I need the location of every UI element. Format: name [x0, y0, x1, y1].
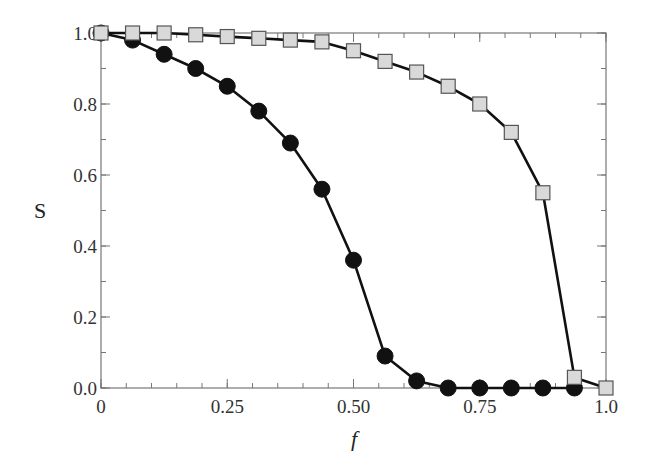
plot-border [101, 33, 606, 388]
circle-marker [472, 380, 488, 396]
y-tick-labels: 0.00.20.40.60.81.0 [73, 23, 97, 399]
series-markers [93, 25, 613, 396]
square-marker [504, 125, 518, 139]
square-marker [599, 381, 613, 395]
series-lines [101, 33, 606, 388]
square-marker [410, 65, 424, 79]
square-marker [126, 26, 140, 40]
y-tick-label: 0.0 [73, 378, 97, 399]
square-marker [189, 28, 203, 42]
x-tick-label: 0.75 [463, 396, 496, 417]
square-marker [347, 44, 361, 58]
circle-marker [282, 135, 298, 151]
square-marker [94, 26, 108, 40]
circle-marker [314, 181, 330, 197]
square-marker [315, 35, 329, 49]
square-marker [157, 26, 171, 40]
x-tick-label: 1.0 [594, 396, 618, 417]
square-marker [567, 370, 581, 384]
y-tick-label: 0.6 [73, 165, 97, 186]
chart-canvas: 00.250.500.751.0 0.00.20.40.60.81.0 f S [0, 0, 647, 472]
circle-marker [188, 61, 204, 77]
x-tick-labels: 00.250.500.751.0 [96, 396, 618, 417]
y-tick-label: 0.2 [73, 307, 97, 328]
axis-ticks [101, 33, 606, 388]
circle-marker [219, 78, 235, 94]
circle-marker [503, 380, 519, 396]
circle-marker [156, 46, 172, 62]
x-tick-label: 0.25 [211, 396, 244, 417]
square-marker [473, 97, 487, 111]
circle-marker [251, 103, 267, 119]
circle-marker [346, 252, 362, 268]
circle-marker [440, 380, 456, 396]
square-marker [283, 33, 297, 47]
y-axis-title: S [34, 198, 46, 223]
x-axis-title: f [351, 426, 360, 451]
circle-marker [409, 373, 425, 389]
circle-marker [535, 380, 551, 396]
square-marker [220, 30, 234, 44]
plot-frame [101, 33, 606, 388]
square-marker [536, 186, 550, 200]
x-tick-label: 0.50 [337, 396, 370, 417]
square-marker [378, 54, 392, 68]
y-tick-label: 0.4 [73, 236, 97, 257]
y-tick-label: 0.8 [73, 94, 97, 115]
circle-marker [377, 348, 393, 364]
series-line-circles [101, 33, 574, 388]
x-tick-label: 0 [96, 396, 106, 417]
square-marker [252, 31, 266, 45]
series-line-squares [101, 33, 606, 388]
square-marker [441, 79, 455, 93]
